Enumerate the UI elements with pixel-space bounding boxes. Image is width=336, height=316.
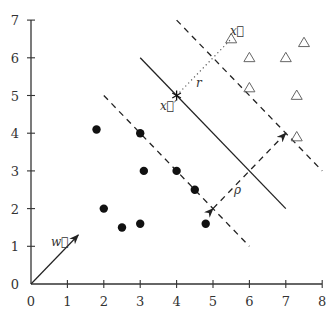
triangle-point: [299, 37, 310, 46]
x-prime-label: x⃗′: [160, 99, 177, 113]
triangle-point: [244, 52, 255, 61]
svm-margin-diagram: 012345678 01234567 w⃗ x⃗ x⃗′ r ρ: [0, 0, 336, 316]
lines: [31, 20, 322, 284]
y-tick-label: 7: [11, 13, 19, 28]
circle-point: [92, 125, 100, 133]
triangle-point: [291, 131, 302, 140]
y-tick-label: 6: [11, 51, 19, 66]
triangle-point: [280, 52, 291, 61]
y-tick-label: 0: [11, 277, 19, 292]
x-tick-label: 7: [282, 294, 290, 309]
x-tick-label: 4: [172, 294, 180, 309]
circle-point: [202, 219, 210, 227]
axes: 012345678 01234567: [11, 13, 327, 309]
circle-point: [118, 223, 126, 231]
circle-point: [100, 204, 108, 212]
y-tick-label: 3: [11, 164, 19, 179]
x-tick-label: 2: [100, 294, 108, 309]
x-label: x⃗: [230, 24, 244, 38]
triangle-point: [291, 90, 302, 99]
circle-point: [191, 186, 199, 194]
circle-point: [172, 167, 180, 175]
r-label: r: [196, 76, 203, 90]
w-label: w⃗: [51, 235, 68, 249]
x-tick-label: 5: [209, 294, 217, 309]
r-distance-line: [177, 39, 232, 96]
y-tick-label: 5: [11, 89, 19, 104]
circle-point: [136, 219, 144, 227]
x-tick-label: 0: [27, 294, 35, 309]
triangle-points: [226, 33, 310, 140]
triangle-point: [244, 82, 255, 91]
circle-point: [136, 129, 144, 137]
circle-point: [140, 167, 148, 175]
x-tick-label: 3: [136, 294, 144, 309]
y-tick-label: 2: [11, 202, 19, 217]
x-tick-label: 6: [245, 294, 253, 309]
x-tick-label: 8: [318, 294, 326, 309]
x-tick-label: 1: [63, 294, 71, 309]
circle-points: [92, 125, 210, 231]
decision-boundary-line: [140, 58, 286, 209]
y-tick-label: 4: [11, 126, 19, 141]
rho-label: ρ: [233, 183, 241, 197]
y-tick-label: 1: [11, 239, 19, 254]
